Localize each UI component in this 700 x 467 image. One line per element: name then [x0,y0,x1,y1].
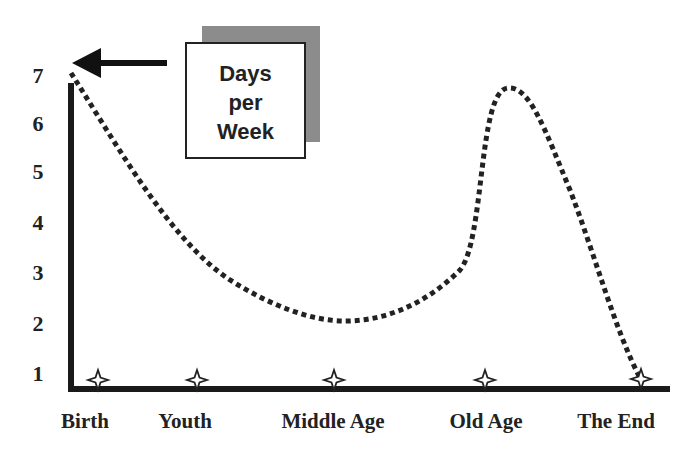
y-tick-2: 2 [33,311,44,336]
y-tick-7: 7 [33,63,44,88]
days-per-week-chart: Days per Week 7 6 5 4 3 2 1 Birth Youth … [0,0,700,467]
x-label-the-end: The End [577,409,655,433]
callout-line-3: Week [217,119,275,144]
callout-line-2: per [228,90,263,115]
y-tick-5: 5 [33,159,44,184]
x-label-birth: Birth [61,409,109,433]
x-label-old-age: Old Age [450,409,523,433]
y-tick-6: 6 [33,111,44,136]
y-tick-1: 1 [33,361,44,386]
days-per-week-curve [71,73,640,378]
y-tick-3: 3 [33,260,44,285]
x-label-middle-age: Middle Age [281,409,384,433]
x-label-youth: Youth [158,409,212,433]
callout-line-1: Days [219,61,272,86]
arrow-head-icon [72,48,101,78]
y-tick-4: 4 [33,210,44,235]
